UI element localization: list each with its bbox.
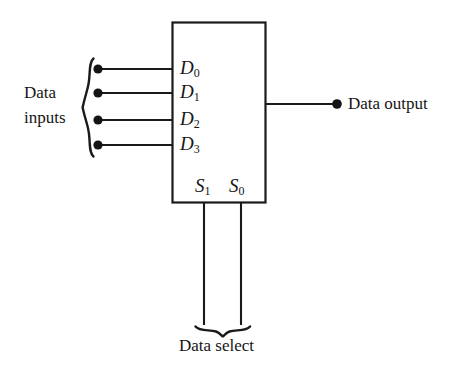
data-inputs-brace-icon [83,59,94,157]
terminal-dot-d3 [93,140,102,149]
port-label-d3: D3 [180,134,200,153]
port-label-s1-subscript: 1 [205,184,211,198]
port-label-d2-base: D [180,108,194,129]
terminal-dot-d1 [93,88,102,97]
terminal-dot-d2 [93,115,102,124]
port-label-s0-base: S [229,175,239,196]
data-input-terminals [93,64,102,149]
data-output-label: Data output [348,95,428,112]
port-label-d3-subscript: 3 [194,142,200,156]
port-label-d0-base: D [180,57,194,78]
terminal-dot-d0 [93,64,102,73]
mux-diagram: Data inputs D0 D1 D2 D3 S1 S0 Data outpu… [0,0,469,380]
data-inputs-label-line1: Data [24,83,56,102]
port-label-d2: D2 [180,109,200,128]
data-select-label: Data select [179,337,254,354]
port-label-d1: D1 [180,82,200,101]
terminal-dot-data-output [332,99,342,109]
port-label-s1-base: S [195,175,205,196]
port-label-s0: S0 [229,176,245,195]
port-label-d1-base: D [180,81,194,102]
data-select-brace-icon [196,327,251,337]
port-label-d0-subscript: 0 [194,66,200,80]
port-label-d1-subscript: 1 [194,90,200,104]
data-input-wires [98,69,172,145]
port-label-d2-subscript: 2 [194,117,200,131]
port-label-s0-subscript: 0 [239,184,245,198]
data-inputs-label-line2: inputs [24,109,66,126]
port-label-d0: D0 [180,58,200,77]
data-select-wires [204,203,241,325]
port-label-d3-base: D [180,133,194,154]
port-label-s1: S1 [195,176,211,195]
data-inputs-group-label: Data inputs [24,84,66,126]
